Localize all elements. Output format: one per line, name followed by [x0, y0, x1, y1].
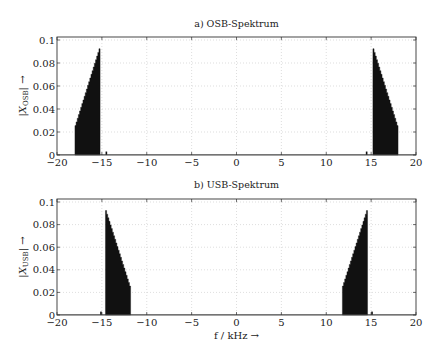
x-tick-label: 5 [278, 157, 284, 168]
y-tick-label: 0.04 [33, 104, 55, 115]
y-tick-label: 0.02 [33, 127, 55, 138]
y-tick-label: 0 [49, 310, 55, 321]
x-tick-label: −10 [136, 157, 157, 168]
y-tick-label: 0.04 [33, 264, 55, 275]
plot-area [57, 37, 416, 155]
x-tick-label: −15 [91, 317, 112, 328]
y-tick-label: 0.1 [39, 197, 55, 208]
y-tick-label: 0.08 [33, 219, 55, 230]
plot-title: a) OSB-Spektrum [194, 18, 279, 29]
x-tick-label: 10 [320, 157, 333, 168]
x-tick-label: −15 [91, 157, 112, 168]
x-tick-label: 0 [233, 317, 239, 328]
y-tick-label: 0 [49, 150, 55, 161]
y-tick-label: 0.06 [33, 242, 55, 253]
x-tick-label: −5 [184, 317, 199, 328]
y-tick-label: 0.1 [39, 35, 55, 46]
x-tick-label: 10 [320, 317, 333, 328]
x-tick-label: 15 [365, 157, 378, 168]
y-axis-label: |XUSB| → [17, 236, 30, 278]
x-tick-label: 15 [365, 317, 378, 328]
x-tick-label: 20 [410, 157, 423, 168]
x-tick-label: 0 [233, 157, 239, 168]
y-tick-label: 0.06 [33, 81, 55, 92]
y-axis-label: |XOSB| → [17, 75, 30, 117]
spectrum-figure: a) OSB-Spektrum−20−15−10−50510152000.020… [0, 0, 443, 356]
x-tick-label: 5 [278, 317, 284, 328]
x-tick-label: 20 [410, 317, 423, 328]
osb-spectrum-plot: a) OSB-Spektrum−20−15−10−50510152000.020… [17, 18, 422, 168]
y-tick-label: 0.02 [33, 287, 55, 298]
x-tick-label: −10 [136, 317, 157, 328]
y-tick-label: 0.08 [33, 58, 55, 69]
usb-spectrum-plot: b) USB-Spektrum−20−15−10−50510152000.020… [17, 179, 422, 341]
x-axis-label: f / kHz → [214, 330, 260, 341]
x-tick-label: −5 [184, 157, 199, 168]
plot-title: b) USB-Spektrum [194, 179, 279, 190]
